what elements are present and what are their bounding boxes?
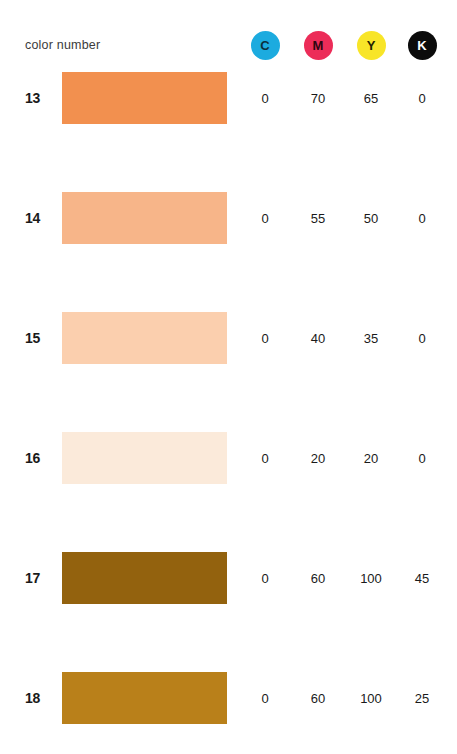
color-swatch [62, 432, 227, 484]
value-yellow: 20 [349, 432, 393, 484]
color-number-label: 14 [25, 192, 55, 244]
cmyk-color-chart: color number CMYK 1307065014055500150403… [0, 0, 457, 754]
value-cyan: 0 [243, 552, 287, 604]
value-black: 25 [400, 672, 444, 724]
value-yellow: 35 [349, 312, 393, 364]
value-magenta: 60 [296, 672, 340, 724]
table-row: 13070650 [0, 72, 457, 124]
value-magenta: 40 [296, 312, 340, 364]
color-number-label: 16 [25, 432, 55, 484]
value-yellow: 65 [349, 72, 393, 124]
value-magenta: 20 [296, 432, 340, 484]
ink-dot-cyan: C [251, 31, 280, 60]
value-cyan: 0 [243, 192, 287, 244]
color-swatch [62, 552, 227, 604]
table-row: 15040350 [0, 312, 457, 364]
value-black: 45 [400, 552, 444, 604]
ink-dot-black: K [408, 31, 437, 60]
color-number-label: 17 [25, 552, 55, 604]
color-number-label: 15 [25, 312, 55, 364]
color-swatch [62, 312, 227, 364]
color-swatch [62, 192, 227, 244]
value-yellow: 100 [349, 552, 393, 604]
value-magenta: 60 [296, 552, 340, 604]
value-magenta: 70 [296, 72, 340, 124]
value-magenta: 55 [296, 192, 340, 244]
ink-dot-yellow: Y [357, 31, 386, 60]
page-title: color number [25, 38, 100, 52]
table-row: 1806010025 [0, 672, 457, 724]
value-black: 0 [400, 72, 444, 124]
color-swatch [62, 672, 227, 724]
value-yellow: 50 [349, 192, 393, 244]
table-row: 16020200 [0, 432, 457, 484]
ink-dot-magenta: M [304, 31, 333, 60]
value-black: 0 [400, 312, 444, 364]
ink-dot-letter: K [417, 39, 426, 52]
chart-header: color number CMYK [0, 28, 457, 66]
value-cyan: 0 [243, 72, 287, 124]
table-row: 1706010045 [0, 552, 457, 604]
ink-dot-letter: M [313, 39, 324, 52]
ink-dot-letter: Y [367, 39, 376, 52]
value-black: 0 [400, 192, 444, 244]
value-cyan: 0 [243, 312, 287, 364]
value-cyan: 0 [243, 672, 287, 724]
ink-dot-letter: C [260, 39, 269, 52]
color-swatch [62, 72, 227, 124]
value-black: 0 [400, 432, 444, 484]
table-row: 14055500 [0, 192, 457, 244]
value-yellow: 100 [349, 672, 393, 724]
color-number-label: 18 [25, 672, 55, 724]
color-number-label: 13 [25, 72, 55, 124]
value-cyan: 0 [243, 432, 287, 484]
